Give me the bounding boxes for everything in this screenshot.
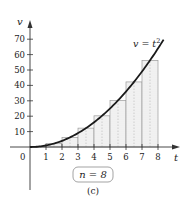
x-tick-label: 2 — [59, 152, 64, 162]
y-tick-label: 60 — [14, 50, 25, 60]
x-axis-arrow-icon — [172, 145, 180, 150]
figure-caption: (c) — [87, 186, 99, 196]
y-tick-label: 50 — [14, 65, 25, 75]
x-tick-label: 8 — [155, 152, 160, 162]
riemann-sum-chart: 1020304050607012345678 v t 0 v = t2 n = … — [0, 0, 186, 208]
x-axis-label: t — [174, 152, 179, 163]
y-axis-arrow-icon — [28, 20, 33, 28]
y-tick-label: 70 — [14, 34, 25, 44]
x-tick-label: 5 — [107, 152, 112, 162]
curve-equation-label: v = t2 — [133, 37, 160, 49]
y-tick-label: 10 — [14, 127, 25, 137]
y-tick-label: 40 — [14, 80, 25, 90]
x-tick-label: 7 — [139, 152, 144, 162]
midpoint-rectangles — [30, 60, 158, 147]
equation-exponent: 2 — [156, 37, 160, 45]
y-axis-label: v — [17, 16, 23, 27]
x-tick-label: 4 — [91, 152, 96, 162]
y-tick-label: 20 — [14, 111, 25, 121]
origin-label: 0 — [20, 152, 25, 162]
equation-base: v = t — [133, 38, 156, 49]
x-tick-label: 3 — [75, 152, 80, 162]
y-tick-label: 30 — [14, 96, 25, 106]
x-tick-label: 6 — [123, 152, 128, 162]
n-value-label: n = 8 — [79, 169, 107, 180]
x-tick-label: 1 — [43, 152, 48, 162]
